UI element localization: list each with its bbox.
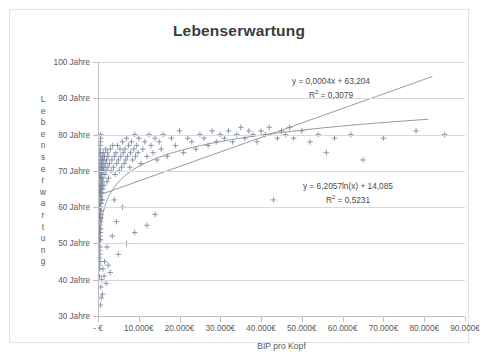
y-axis-tick-labels: 30 Jahre40 Jahre50 Jahre60 Jahre70 Jahre…: [34, 10, 90, 362]
scatter-point: [131, 146, 137, 152]
scatter-point: [173, 143, 179, 149]
scatter-point: [117, 146, 123, 152]
x-axis-tick-label: - €: [93, 324, 103, 333]
scatter-point: [107, 270, 113, 276]
scatter-point: [275, 135, 281, 141]
scatter-point: [135, 150, 141, 156]
log-r-squared: R2 = 0,5231: [268, 192, 428, 206]
logarithmic-trendline-equation: y = 6,2057ln(x) + 14,085 R2 = 0,5231: [268, 181, 428, 206]
scatter-point: [360, 157, 366, 163]
scatter-point: [132, 230, 138, 236]
x-axis-title: BIP pro Kopf: [98, 341, 465, 351]
linear-r-squared: R2 = 0,3079: [256, 87, 406, 101]
scatter-point: [109, 233, 115, 239]
x-axis-tick-mark: [383, 317, 384, 322]
linear-trendline-equation: y = 0,0004x + 63,204 R2 = 0,3079: [256, 76, 406, 101]
scatter-point: [148, 143, 154, 149]
y-axis-line: [98, 62, 99, 317]
scatter-point: [156, 139, 162, 145]
x-axis-tick-label: 70.000€: [369, 324, 399, 333]
scatter-point: [103, 281, 109, 287]
scatter-point: [238, 125, 244, 131]
scatter-point: [136, 135, 142, 141]
scatter-point: [120, 139, 126, 145]
gridline-top: [98, 62, 465, 63]
scatter-point: [332, 135, 338, 141]
scatter-point: [158, 146, 164, 152]
y-axis-tick-mark: [93, 135, 98, 136]
scatter-point: [124, 135, 130, 141]
x-axis-tick-label: 50.000€: [287, 324, 317, 333]
scatter-point: [134, 143, 140, 149]
x-axis-tick-label: 20.000€: [165, 324, 195, 333]
scatter-point: [413, 128, 419, 134]
gridline-horizontal: [98, 207, 465, 208]
x-axis-tick-label: 40.000€: [246, 324, 276, 333]
scatter-point: [129, 139, 135, 145]
scatter-point: [116, 252, 122, 258]
x-axis-line: [98, 316, 465, 317]
x-axis-tick-mark: [424, 317, 425, 322]
x-axis-tick-mark: [180, 317, 181, 322]
y-axis-tick-label: 60 Jahre: [38, 203, 90, 212]
scatter-point: [111, 164, 117, 170]
scatter-point: [152, 135, 158, 141]
scatter-point: [128, 150, 134, 156]
y-axis-tick-label: 90 Jahre: [38, 94, 90, 103]
scatter-point: [105, 262, 111, 268]
x-axis-tick-mark: [343, 317, 344, 322]
x-axis-tick-mark: [98, 317, 99, 322]
scatter-point: [130, 157, 136, 163]
scatter-point: [181, 150, 187, 156]
scatter-point: [127, 164, 133, 170]
y-axis-tick-mark: [93, 207, 98, 208]
scatter-point: [266, 125, 272, 131]
scatter-point: [144, 154, 150, 160]
scatter-point: [101, 273, 107, 279]
y-axis-tick-mark: [93, 98, 98, 99]
x-axis-tick-label: 80.000€: [409, 324, 439, 333]
scatter-point: [152, 212, 158, 218]
scatter-point: [201, 135, 207, 141]
log-equation-text: y = 6,2057ln(x) + 14,085: [268, 181, 428, 192]
scatter-point: [291, 135, 297, 141]
scatter-point: [118, 154, 124, 160]
scatter-point: [226, 128, 232, 134]
x-axis-tick-mark: [139, 317, 140, 322]
scatter-point: [169, 135, 175, 141]
y-axis-tick-label: 40 Jahre: [38, 275, 90, 284]
scatter-point: [126, 143, 132, 149]
scatter-point: [144, 222, 150, 228]
scatter-point: [185, 135, 191, 141]
x-axis-tick-mark: [261, 317, 262, 322]
scatter-point: [107, 146, 113, 152]
scatter-point: [209, 128, 215, 134]
scatter-point: [102, 259, 108, 265]
gridline-horizontal: [98, 135, 465, 136]
y-axis-tick-label: 80 Jahre: [38, 130, 90, 139]
scatter-point: [307, 139, 313, 145]
y-axis-tick-label: 100 Jahre: [38, 58, 90, 67]
y-axis-tick-label: 30 Jahre: [38, 312, 90, 321]
scatter-point: [112, 197, 118, 203]
x-axis-tick-label: 90.000€: [450, 324, 480, 333]
scatter-point: [119, 164, 125, 170]
scatter-point: [112, 172, 118, 178]
y-axis-tick-mark: [93, 243, 98, 244]
linear-equation-text: y = 0,0004x + 63,204: [256, 76, 406, 87]
scatter-point: [381, 135, 387, 141]
scatter-point: [115, 143, 121, 149]
y-axis-tick-mark: [93, 62, 98, 63]
scatter-point: [189, 139, 195, 145]
x-axis-tick-mark: [220, 317, 221, 322]
chart-frame: Lebenserwartung Lebenserwartung 30 Jahre…: [9, 9, 469, 343]
scatter-point: [324, 150, 330, 156]
y-axis-tick-mark: [93, 280, 98, 281]
scatter-point: [177, 128, 183, 134]
scatter-point: [246, 128, 252, 134]
scatter-point: [150, 150, 156, 156]
scatter-point: [140, 146, 146, 152]
scatter-point: [114, 219, 120, 225]
scatter-point: [109, 157, 115, 163]
x-axis-tick-label: 30.000€: [206, 324, 236, 333]
